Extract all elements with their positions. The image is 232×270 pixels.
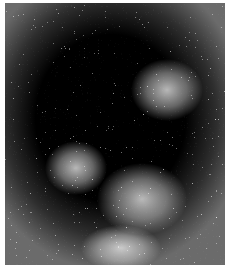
image-canvas: [0, 0, 232, 270]
speckle-texture-block: [5, 3, 225, 265]
speckle-layer-clumping: [5, 3, 225, 265]
